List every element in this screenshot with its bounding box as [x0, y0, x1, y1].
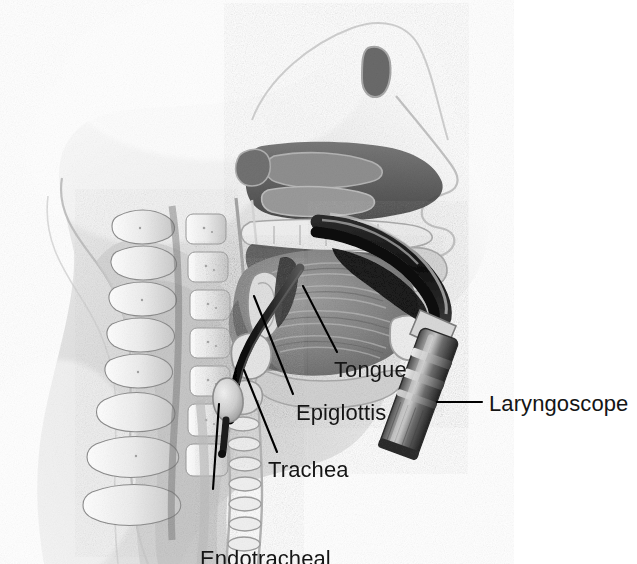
label-epiglottis: Epiglottis — [296, 400, 386, 425]
label-trachea: Trachea — [268, 457, 349, 482]
illustration-figure: Tongue Laryngoscope Epiglottis Trachea E… — [0, 0, 637, 564]
label-laryngoscope: Laryngoscope — [489, 391, 628, 416]
label-endotracheal-tube-line1: Endotracheal — [200, 546, 331, 564]
label-endotracheal-tube: Endotracheal tube — [200, 494, 331, 564]
label-tongue: Tongue — [334, 357, 407, 382]
